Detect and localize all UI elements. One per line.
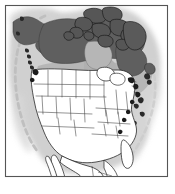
north-america-range-map (0, 0, 175, 194)
range-map-figure (0, 0, 175, 194)
